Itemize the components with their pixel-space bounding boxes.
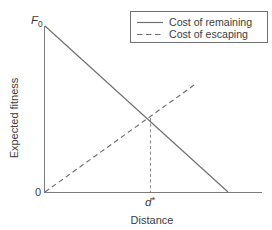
figure-container: Expected fitness Distance F0 0 d* Cost o… — [0, 0, 272, 230]
chart-canvas: Expected fitness Distance F0 0 d* Cost o… — [0, 0, 272, 230]
y-axis-max-label: F0 — [31, 14, 43, 29]
y-axis-max-label-subscript: 0 — [38, 19, 43, 29]
series-cost-of-remaining — [45, 26, 228, 192]
series-cost-of-escaping — [45, 83, 197, 192]
x-axis-dstar-superscript: * — [151, 194, 155, 205]
legend-label-cost-of-remaining: Cost of remaining — [169, 16, 252, 28]
origin-zero-label: 0 — [35, 186, 41, 198]
legend-label-cost-of-escaping: Cost of escaping — [169, 28, 248, 40]
x-axis-dstar-label: d* — [145, 194, 155, 208]
y-axis-title: Expected fitness — [8, 77, 20, 158]
x-axis-title: Distance — [131, 214, 174, 226]
legend: Cost of remaining Cost of escaping — [131, 12, 268, 43]
